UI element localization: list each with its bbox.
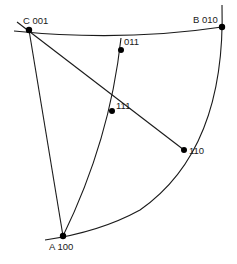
line-c-a [29,30,63,236]
point-111 [109,108,115,114]
label-111: 111 [116,100,130,111]
stereographic-triangle-diagram: C 001 011 B 010 111 110 A 100 [0,0,237,264]
point-c [26,27,32,33]
label-110: 110 [189,145,204,156]
arc-c-b [14,27,222,36]
diagram-svg: C 001 011 B 010 111 110 A 100 [0,0,237,264]
point-110 [181,147,187,153]
point-b [219,24,225,30]
label-c: C 001 [23,15,48,26]
line-c-110 [17,22,184,150]
point-011 [118,47,124,53]
point-a [60,233,66,239]
label-b: B 010 [193,14,218,25]
label-a: A 100 [49,241,73,252]
arc-011-a [63,38,121,236]
label-011: 011 [124,36,139,47]
